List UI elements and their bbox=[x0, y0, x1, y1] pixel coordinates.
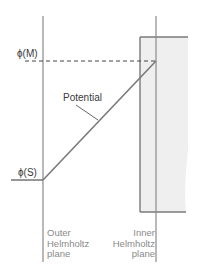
outer-helmholtz-plane-label: Outer Helmholtz plane bbox=[47, 228, 89, 260]
potential-line bbox=[43, 61, 156, 180]
outer-plane-line-1: Outer bbox=[47, 228, 89, 239]
phi-s-label: ϕ(S) bbox=[18, 168, 37, 178]
potential-label: Potential bbox=[63, 93, 102, 103]
outer-plane-line-3: plane bbox=[47, 249, 89, 260]
helmholtz-diagram bbox=[0, 0, 200, 274]
inner-plane-line-1: Inner bbox=[113, 228, 155, 239]
inner-helmholtz-plane-label: Inner Helmholtz plane bbox=[113, 228, 155, 260]
electrode-region bbox=[140, 37, 188, 212]
inner-plane-line-3: plane bbox=[113, 249, 155, 260]
potential-leader-line bbox=[76, 105, 98, 120]
phi-m-label: ϕ(M) bbox=[17, 49, 38, 59]
